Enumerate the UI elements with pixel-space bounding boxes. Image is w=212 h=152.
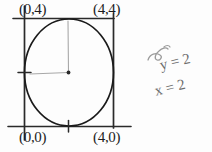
pencil-scribble-tail-icon bbox=[164, 46, 170, 48]
corner-label-bottom-left: (0,0) bbox=[19, 130, 46, 145]
corner-label-bottom-right: (4,0) bbox=[93, 130, 120, 145]
radius-line-up bbox=[68, 21, 69, 72]
radius-line-left bbox=[30, 73, 69, 75]
diagram-canvas: (0,4) (4,4) (0,0) (4,0) y = 2 x = 2 bbox=[0, 0, 212, 152]
corner-label-top-right: (4,4) bbox=[93, 2, 120, 17]
corner-label-top-left: (0,4) bbox=[19, 2, 46, 17]
circle-center-dot bbox=[67, 71, 71, 75]
